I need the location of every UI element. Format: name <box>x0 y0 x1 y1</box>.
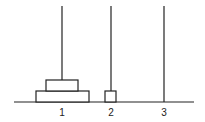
disk-small-peg-2 <box>105 91 116 102</box>
disk-medium-peg-1 <box>46 80 78 91</box>
hanoi-diagram: 1 2 3 <box>0 0 205 122</box>
disk-large-peg-1 <box>36 91 89 102</box>
peg-label-1: 1 <box>59 107 65 118</box>
peg-label-2: 2 <box>108 107 114 118</box>
peg-label-3: 3 <box>161 107 167 118</box>
